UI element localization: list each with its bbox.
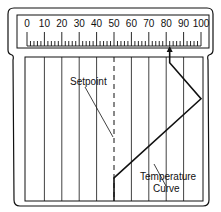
scale-label: 80: [161, 19, 172, 29]
temperature-curve-label-line2: Curve: [153, 184, 180, 194]
scale-label: 60: [126, 19, 137, 29]
scale-label: 10: [39, 19, 50, 29]
scale-label: 20: [56, 19, 67, 29]
temperature-curve-label-line1: Temperature: [140, 172, 196, 182]
scale-ticks: [27, 32, 201, 46]
scale-label: 50: [108, 19, 119, 29]
scale-label: 40: [91, 19, 102, 29]
scale-label: 90: [178, 19, 189, 29]
setpoint-label: Setpoint: [70, 77, 107, 87]
scale-label: 0: [24, 19, 30, 29]
scale-label: 100: [193, 19, 210, 29]
scale-label: 70: [143, 19, 154, 29]
setpoint-leader-line: [85, 87, 113, 137]
scale-label: 30: [74, 19, 85, 29]
